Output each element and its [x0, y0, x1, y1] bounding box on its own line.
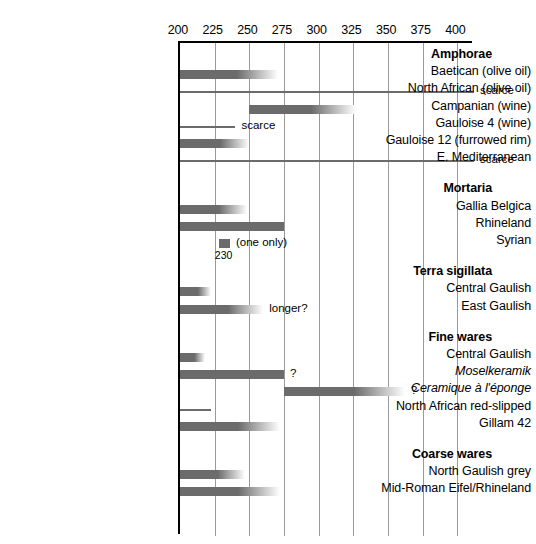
annotation-east-gaulish: longer?: [269, 302, 307, 314]
row-label-gillam-42: Gillam 42: [358, 416, 536, 430]
bar-mid-roman-eifel-rhineland: [180, 487, 280, 496]
bar-central-gaulish: [180, 353, 205, 362]
gridline-275: [284, 43, 285, 536]
row-label-baetican-olive-oil: Baetican (olive oil): [358, 64, 536, 78]
gridline-250: [249, 43, 250, 536]
row-label-rhineland: Rhineland: [358, 216, 536, 230]
row-label-north-african-red-slipped: North African red-slipped: [358, 399, 536, 413]
bar-gallia-belgica: [180, 205, 247, 214]
bar-campanian-wine: [249, 105, 356, 114]
bar-north-african-red-slipped: [180, 409, 211, 411]
bar-gauloise-4-wine: [180, 126, 235, 128]
section-heading-fine-wares: Fine wares: [358, 330, 536, 344]
annotation-gauloise-4-wine: scarce: [241, 119, 275, 131]
value-label-syrian: 230: [215, 249, 233, 261]
bar-rhineland: [180, 222, 284, 231]
section-heading-amphorae: Amphorae: [358, 47, 536, 61]
section-heading-terra-sigillata: Terra sigillata: [358, 264, 536, 278]
row-label-east-gaulish: East Gaulish: [358, 299, 536, 313]
row-label-ceramique-l-ponge: Ceramique à l'éponge: [358, 381, 536, 395]
row-label-central-gaulish: Central Gaulish: [358, 281, 536, 295]
annotation-moselkeramik: ?: [290, 367, 296, 379]
row-label-central-gaulish: Central Gaulish: [358, 347, 536, 361]
bar-gauloise-12-furrowed-rim: [180, 139, 249, 148]
bar-syrian: [219, 239, 230, 248]
row-label-syrian: Syrian: [358, 233, 536, 247]
row-label-moselkeramik: Moselkeramik: [358, 364, 536, 378]
section-heading-mortaria: Mortaria: [358, 181, 536, 195]
gridline-300: [319, 43, 320, 536]
gridline-325: [353, 43, 354, 536]
bar-baetican-olive-oil: [180, 70, 278, 79]
gridline-225: [215, 43, 216, 536]
x-tick-400: 400: [435, 23, 475, 37]
row-label-gallia-belgica: Gallia Belgica: [358, 199, 536, 213]
section-heading-coarse-wares: Coarse wares: [358, 447, 536, 461]
bar-moselkeramik: [180, 370, 284, 379]
bar-north-gaulish-grey: [180, 470, 245, 479]
bar-gillam-42: [180, 422, 280, 431]
row-label-mid-roman-eifel-rhineland: Mid-Roman Eifel/Rhineland: [358, 481, 536, 495]
row-label-e-mediterranean: E. Mediterranean: [358, 150, 536, 164]
bar-central-gaulish: [180, 287, 211, 296]
row-label-north-gaulish-grey: North Gaulish grey: [358, 464, 536, 478]
row-label-gauloise-12-furrowed-rim: Gauloise 12 (furrowed rim): [358, 133, 536, 147]
row-label-gauloise-4-wine: Gauloise 4 (wine): [358, 116, 536, 130]
row-label-north-african-olive-oil: North African (olive oil): [358, 81, 536, 95]
row-label-campanian-wine: Campanian (wine): [358, 99, 536, 113]
pottery-chronology-chart: 200225250275300325350375400 scarcescarce…: [0, 0, 536, 544]
annotation-syrian: (one only): [236, 236, 287, 248]
bar-east-gaulish: [180, 305, 263, 314]
